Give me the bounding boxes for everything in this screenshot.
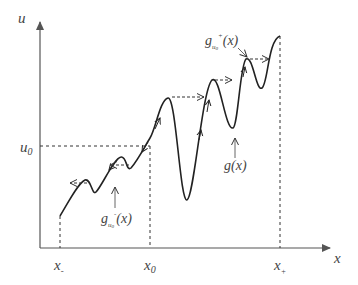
u0-label: u0 xyxy=(20,139,33,157)
svg-text:u0: u0 xyxy=(20,139,33,157)
y-axis-label: u xyxy=(18,10,26,26)
svg-text:gu0+(x): gu0+(x) xyxy=(205,32,239,51)
reference-lines xyxy=(40,36,280,248)
g-lower-annotation: gu0-(x) xyxy=(101,210,132,229)
annotation-pointers xyxy=(115,48,247,208)
svg-text:x+: x+ xyxy=(273,257,286,276)
svg-text:x-: x- xyxy=(53,257,64,276)
svg-text:gu0-(x): gu0-(x) xyxy=(101,210,132,229)
x-tick-x-plus: x+ xyxy=(273,257,286,276)
curve-direction-arrows xyxy=(109,67,245,170)
g-upper-pointer xyxy=(238,48,247,57)
svg-text:x0: x0 xyxy=(143,257,156,275)
x-axis-label: x xyxy=(333,250,341,266)
x-tick-x0: x0 xyxy=(143,257,156,275)
g-curve-annotation: g(x) xyxy=(224,158,247,174)
axes xyxy=(40,22,330,248)
g-curve xyxy=(60,36,280,216)
g-upper-annotation: gu0+(x) xyxy=(205,32,239,51)
diagram: u x u0 x- x0 x+ gu0+(x) gu0-(x) g(x) xyxy=(0,0,358,285)
x-tick-x-minus: x- xyxy=(53,257,64,276)
